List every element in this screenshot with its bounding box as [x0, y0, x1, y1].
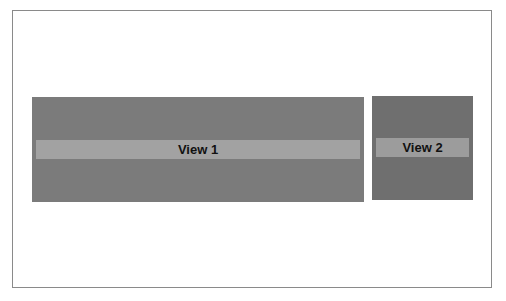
view-2-box: View 2	[372, 96, 473, 200]
view-1-box: View 1	[32, 97, 364, 202]
view-2-label-bar: View 2	[376, 138, 469, 157]
view-1-label-bar: View 1	[36, 140, 360, 159]
view-2-label: View 2	[402, 140, 442, 155]
view-1-label: View 1	[178, 142, 218, 157]
